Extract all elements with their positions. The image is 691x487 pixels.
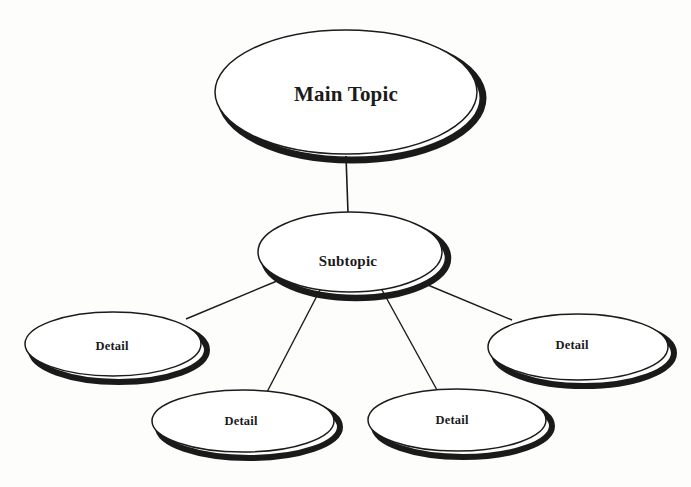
connector-subtopic-to-detail-left (186, 281, 277, 319)
detail-bottom-right-ellipse[interactable] (368, 389, 546, 451)
main-topic-ellipse[interactable] (215, 30, 477, 154)
connector-subtopic-to-detail-bottom-right (382, 290, 437, 390)
connector-main-to-subtopic (346, 156, 348, 213)
detail-left-ellipse[interactable] (25, 312, 201, 376)
connector-subtopic-to-detail-right (423, 283, 512, 320)
diagram-canvas: Main Topic Subtopic Detail Detail Detail… (0, 0, 691, 487)
subtopic-ellipse[interactable] (258, 212, 442, 292)
connector-subtopic-to-detail-bottom-left (267, 290, 320, 392)
detail-bottom-left-ellipse[interactable] (152, 390, 334, 452)
diagram-svg (0, 0, 691, 487)
detail-right-ellipse[interactable] (488, 314, 668, 380)
